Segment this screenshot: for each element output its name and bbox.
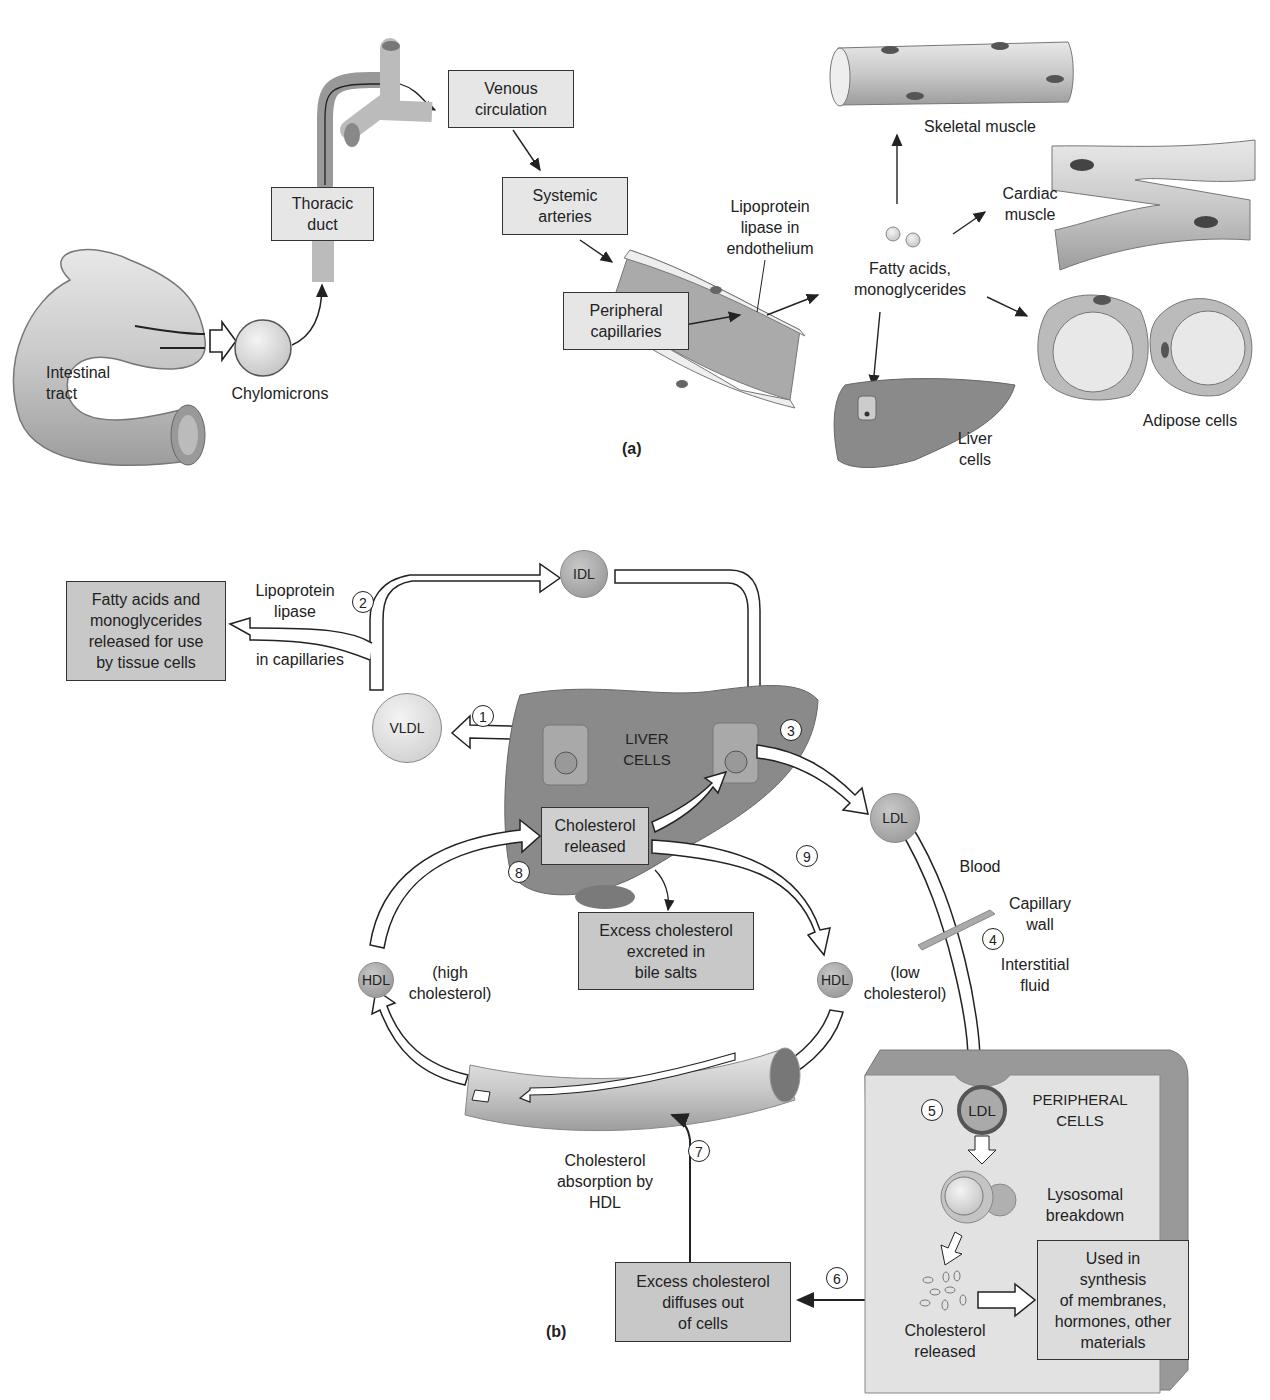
venous-circulation-box: Venous circulation: [448, 70, 574, 128]
cholesterol-released-liver-box: Cholesterol released: [541, 807, 649, 865]
chylomicron-sphere: [235, 320, 291, 376]
interstitial-fluid-label: Interstitial fluid: [990, 954, 1080, 996]
step-9-marker: 9: [796, 845, 818, 867]
excess-cholesterol-diffuses-box: Excess cholesterol diffuses out of cells: [615, 1262, 791, 1342]
excess-cholesterol-excreted-box: Excess cholesterol excreted in bile salt…: [578, 912, 754, 990]
skeletal-muscle-illustration: [830, 42, 1073, 106]
step-3-marker: 3: [780, 719, 802, 741]
cardiac-muscle-label: Cardiac muscle: [990, 183, 1070, 225]
step-8-marker: 8: [508, 861, 530, 883]
adipose-cells-illustration: [1038, 295, 1252, 400]
blood-vessel-illustration: [465, 1048, 800, 1131]
used-in-synthesis-box: Used in synthesis of membranes, hormones…: [1037, 1240, 1189, 1360]
high-cholesterol-label: (high cholesterol): [395, 962, 505, 1004]
cardiac-muscle-illustration: [1052, 140, 1255, 270]
step-6-marker: 6: [826, 1267, 848, 1289]
liver-cells-label: Liver cells: [950, 428, 1000, 470]
thoracic-duct-box: Thoracic duct: [271, 187, 374, 241]
in-capillaries-label: in capillaries: [245, 649, 355, 670]
low-cholesterol-label: (low cholesterol): [855, 962, 955, 1004]
fatty-acids-released-box: Fatty acids and monoglycerides released …: [66, 581, 226, 681]
cholesterol-absorption-label: Cholesterol absorption by HDL: [545, 1150, 665, 1213]
intestinal-tract-label: Intestinal tract: [46, 362, 110, 404]
capillary-wall-label: Capillary wall: [1000, 893, 1080, 935]
panel-a-label: (a): [622, 440, 642, 458]
panel-b-label: (b): [546, 1323, 566, 1341]
lipoprotein-lipase-endothelium-label: Lipoprotein lipase in endothelium: [710, 196, 830, 259]
lipoprotein-lipase-label: Lipoprotein lipase: [255, 580, 335, 622]
liver-cells-b-label: LIVER CELLS: [612, 728, 682, 770]
lysosomal-breakdown-label: Lysosomal breakdown: [1035, 1184, 1135, 1226]
step-7-marker: 7: [688, 1140, 710, 1162]
blood-label: Blood: [950, 856, 1010, 877]
chylomicrons-label: Chylomicrons: [215, 383, 345, 404]
peripheral-cells-label: PERIPHERAL CELLS: [1025, 1089, 1135, 1131]
intestine-illustration: [14, 250, 206, 466]
vldl-particle: VLDL: [372, 693, 442, 763]
hdl-high-particle: HDL: [358, 962, 394, 998]
adipose-cells-label: Adipose cells: [1120, 410, 1260, 431]
step-5-marker: 5: [921, 1099, 943, 1121]
step-4-marker: 4: [982, 928, 1004, 950]
ldl-cell-particle: LDL: [962, 1100, 1002, 1121]
peripheral-capillaries-box: Peripheral capillaries: [563, 292, 689, 350]
step-2-marker: 2: [352, 591, 374, 613]
cholesterol-released-cell-label: Cholesterol released: [890, 1320, 1000, 1362]
step-1-marker: 1: [472, 705, 494, 727]
ldl-blood-particle: LDL: [870, 793, 920, 843]
fatty-acids-label: Fatty acids, monoglycerides: [835, 258, 985, 300]
skeletal-muscle-label: Skeletal muscle: [900, 116, 1060, 137]
idl-particle: IDL: [560, 550, 608, 598]
systemic-arteries-box: Systemic arteries: [502, 177, 628, 235]
hdl-low-particle: HDL: [817, 962, 853, 998]
